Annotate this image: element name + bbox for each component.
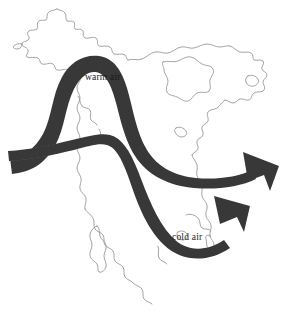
cold-air-label: cold air: [172, 232, 203, 242]
lower-left-trace: [158, 246, 167, 264]
jet-stream-diagram: warm air cold air: [0, 0, 286, 315]
alaska-peninsula: [13, 44, 22, 49]
cold-air-flow: [8, 134, 250, 258]
gulf-of-california-outline: [90, 226, 106, 272]
hudson-bay-outline: [162, 57, 213, 101]
warm-air-arrowhead: [243, 152, 279, 191]
jet-stream-figure: warm air cold air: [0, 0, 286, 315]
us-east-coast: [192, 155, 211, 236]
warm-air-flow: [10, 56, 279, 191]
warm-air-label: warm air: [85, 72, 121, 82]
maritimes-coast: [192, 100, 225, 155]
labrador-coast: [225, 46, 267, 103]
mexico-west-coast: [133, 283, 152, 304]
newfoundland-outline: [246, 75, 259, 86]
alaska-outline: [57, 9, 128, 60]
interior-contour: [78, 96, 97, 125]
canada-north-coast: [128, 44, 230, 60]
gulf-coast-trace: [186, 214, 211, 231]
great-lakes-outline: [175, 127, 187, 137]
cold-air-arrowhead: [214, 196, 250, 232]
